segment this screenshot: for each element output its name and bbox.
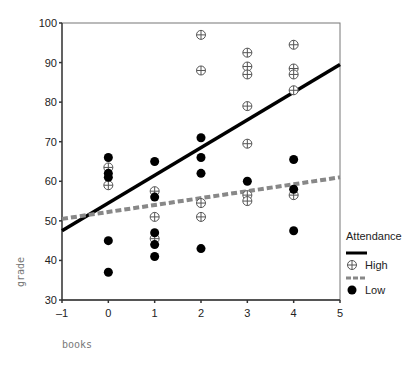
point-low: [150, 240, 159, 249]
y-tick-label: 50: [45, 215, 57, 227]
legend-marker-high-icon: [348, 261, 357, 270]
point-high: [197, 30, 206, 39]
y-tick-label: 40: [45, 254, 57, 266]
point-high: [197, 199, 206, 208]
point-high: [243, 48, 252, 57]
point-high: [243, 102, 252, 111]
point-low: [289, 155, 298, 164]
point-low: [197, 169, 206, 178]
y-tick-label: 70: [45, 136, 57, 148]
point-low: [197, 133, 206, 142]
point-low: [150, 193, 159, 202]
point-high: [289, 70, 298, 79]
y-tick-label: 80: [45, 96, 57, 108]
legend: Attendance High Low: [346, 230, 402, 296]
point-low: [197, 244, 206, 253]
x-tick-label: 3: [244, 307, 250, 319]
y-axis-title: grade: [15, 257, 26, 287]
y-tick-label: 60: [45, 175, 57, 187]
point-high: [243, 70, 252, 79]
x-tick-label: 2: [198, 307, 204, 319]
y-axis: 30405060708090100: [39, 17, 62, 306]
point-low: [104, 173, 113, 182]
y-tick-label: 90: [45, 57, 57, 69]
point-low: [289, 226, 298, 235]
point-high: [197, 212, 206, 221]
x-tick-label: –1: [56, 307, 68, 319]
y-tick-label: 100: [39, 17, 57, 29]
x-tick-label: 4: [291, 307, 297, 319]
point-low: [150, 157, 159, 166]
data-points: [104, 30, 298, 276]
point-low: [104, 236, 113, 245]
point-low: [197, 153, 206, 162]
point-high: [289, 40, 298, 49]
x-tick-label: 0: [105, 307, 111, 319]
point-high: [243, 139, 252, 148]
legend-marker-low-icon: [348, 286, 357, 295]
point-low: [104, 153, 113, 162]
x-axis-title: books: [62, 339, 92, 350]
point-low: [150, 252, 159, 261]
x-axis: –1012345: [56, 300, 343, 319]
point-low: [289, 185, 298, 194]
x-tick-label: 1: [152, 307, 158, 319]
legend-label-high: High: [365, 259, 388, 271]
point-low: [104, 268, 113, 277]
x-tick-label: 5: [337, 307, 343, 319]
point-high: [289, 86, 298, 95]
point-low: [150, 228, 159, 237]
point-high: [197, 66, 206, 75]
point-low: [243, 177, 252, 186]
legend-title: Attendance: [346, 230, 402, 242]
y-tick-label: 30: [45, 294, 57, 306]
point-high: [243, 197, 252, 206]
scatter-chart: –1012345 30405060708090100 books grade A…: [0, 0, 419, 365]
point-high: [150, 212, 159, 221]
point-high: [104, 181, 113, 190]
legend-label-low: Low: [365, 284, 385, 296]
